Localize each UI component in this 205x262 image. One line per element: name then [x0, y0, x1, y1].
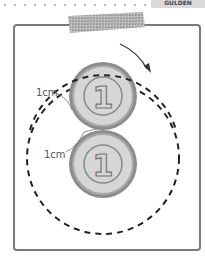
svg-text:1: 1	[93, 80, 114, 115]
top-distance-label: 1cm	[36, 87, 58, 98]
svg-text:1: 1	[93, 148, 114, 183]
bottom-distance-label: 1cm	[44, 149, 66, 160]
coin-rotation-diagram: 1 1 1cm 1cm	[0, 0, 205, 262]
top-coin: 1	[69, 62, 137, 130]
